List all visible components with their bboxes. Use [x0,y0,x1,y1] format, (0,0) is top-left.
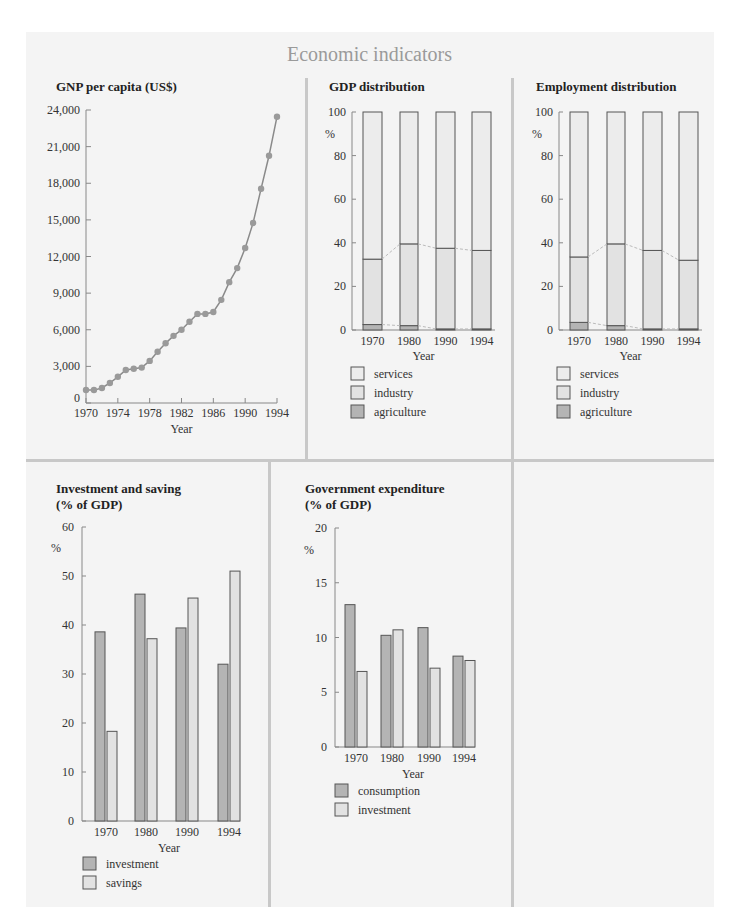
gdp-legend-swatch-industry [351,386,364,399]
gdp-industry-connector [455,248,472,250]
investment-legend-swatch-savings [83,876,96,889]
gnp-data-point [154,349,160,355]
gdp-y-tick-label: 0 [340,323,346,337]
employment-legend-swatch-industry [557,386,570,399]
employment-y-tick-label: 20 [541,279,553,293]
gnp-x-axis-label: Year [170,422,192,436]
gnp-data-point [162,340,168,346]
employment-y-tick-label: 100 [535,105,553,119]
employment-x-axis-label: Year [619,349,641,363]
gnp-data-point [99,385,105,391]
employment-y-tick-label: 40 [541,236,553,250]
gnp-x-tick-label: 1982 [170,406,194,420]
government-x-tick-label: 1970 [344,751,368,765]
employment-bar-services [607,112,625,244]
gnp-data-point [218,297,224,303]
gdp-agriculture-connector [418,326,436,329]
gnp-y-tick-label: 3,000 [53,359,80,373]
investment-bar-investment [95,632,105,821]
gdp-y-tick-label: 60 [334,192,346,206]
gnp-y-tick-label: 6,000 [53,323,80,337]
gnp-x-tick-label: 1978 [138,406,162,420]
employment-industry-connector [662,250,679,260]
investment-y-tick-label: 0 [68,814,74,828]
investment-bar-savings [107,731,117,821]
gdp-y-tick-label: 40 [334,236,346,250]
government-bar-investment [430,668,440,747]
gnp-x-tick-label: 1974 [106,406,130,420]
gdp-industry-connector [418,244,436,248]
government-bar-consumption [381,635,391,747]
gnp-x-tick-label: 1990 [233,406,257,420]
employment-legend-swatch-agriculture [557,405,570,418]
economic-indicators-figure: Economic indicators GNP per capita (US$)… [0,0,739,916]
government-legend-label-investment: investment [358,803,411,817]
gnp-data-point [266,153,272,159]
employment-x-tick-label: 1990 [641,334,665,348]
employment-y-tick-label: 0 [547,323,553,337]
employment-y-tick-label: 60 [541,192,553,206]
gnp-data-point [250,220,256,226]
investment-y-tick-label: 50 [62,569,74,583]
employment-industry-connector [625,244,643,251]
gnp-data-point [123,367,129,373]
gdp-x-tick-label: 1970 [361,334,385,348]
investment-bar-investment [218,664,228,821]
gdp-legend-label-services: services [374,367,413,381]
employment-bar-industry [643,250,662,328]
government-bar-consumption [345,605,355,747]
government-x-axis-label: Year [402,767,424,781]
gnp-data-point [146,358,152,364]
gnp-data-point [178,327,184,333]
gnp-y-tick-label: 15,000 [47,213,80,227]
government-y-tick-label: 10 [315,631,327,645]
investment-bar-savings [188,598,198,821]
government-legend-swatch-consumption [335,784,348,797]
investment-legend-label-savings: savings [106,876,142,890]
employment-industry-connector [588,244,607,257]
gdp-bar-industry [472,250,491,328]
gnp-x-tick-label: 1994 [265,406,289,420]
investment-y-tick-label: 60 [62,520,74,534]
gnp-data-point [83,387,89,393]
gnp-data-point [194,311,200,317]
gdp-x-axis-label: Year [412,349,434,363]
gdp-y-unit-label: % [325,127,335,141]
government-y-tick-label: 5 [321,685,327,699]
gdp-bar-services [472,112,491,250]
government-bar-consumption [418,628,428,747]
gdp-bar-agriculture [400,326,418,330]
employment-bar-industry [570,257,588,322]
gdp-y-tick-label: 80 [334,149,346,163]
investment-bar-investment [135,594,145,821]
gdp-x-tick-label: 1980 [397,334,421,348]
gnp-y-tick-label: 12,000 [47,250,80,264]
gnp-y-tick-label: 24,000 [47,103,80,117]
gnp-data-point [186,319,192,325]
gdp-bar-industry [400,244,418,326]
gdp-bar-services [363,112,382,259]
investment-x-tick-label: 1980 [134,825,158,839]
government-bar-investment [357,671,367,747]
employment-bar-services [679,112,698,260]
gnp-line [86,117,277,390]
gdp-y-tick-label: 20 [334,279,346,293]
government-legend-label-consumption: consumption [358,784,420,798]
gnp-x-tick-label: 1986 [201,406,225,420]
government-x-tick-label: 1990 [417,751,441,765]
gnp-y-tick-label: 9,000 [53,286,80,300]
gnp-y-tick-label: 0 [74,391,80,405]
employment-x-tick-label: 1994 [677,334,701,348]
gdp-legend-swatch-agriculture [351,405,364,418]
gdp-x-tick-label: 1990 [434,334,458,348]
employment-bar-services [570,112,588,257]
investment-bar-savings [147,639,157,821]
employment-agriculture-connector [588,322,607,325]
gdp-x-tick-label: 1994 [470,334,494,348]
investment-y-tick-label: 30 [62,667,74,681]
gnp-data-point [242,245,248,251]
gnp-y-tick-label: 21,000 [47,140,80,154]
employment-legend-label-industry: industry [580,386,619,400]
employment-bar-agriculture [570,322,588,330]
gdp-y-tick-label: 100 [328,105,346,119]
